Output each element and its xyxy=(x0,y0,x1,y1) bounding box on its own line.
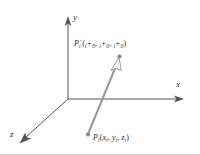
point-marker-source xyxy=(86,132,90,136)
point-label-source: Pi(xi, yi, zi) xyxy=(93,134,129,142)
z-axis-line xyxy=(26,99,68,137)
p-prime-z0-sub: 0 xyxy=(121,43,124,49)
p-prime-y0-sub: 0 xyxy=(106,43,109,49)
p-prime-plus-3: + xyxy=(115,39,120,48)
p-close-paren: ) xyxy=(126,133,129,142)
diagram-canvas xyxy=(0,0,200,155)
p-prime-mark: ′ xyxy=(80,38,82,46)
p-comma-2: , xyxy=(117,133,119,142)
p-prime-x0-sub: 0 xyxy=(92,43,95,49)
figure-container: y x z Pi′(i+0, i+0, i+0) Pi(xi, yi, zi) xyxy=(0,0,200,155)
p-prime-comma-2: , xyxy=(109,39,111,48)
y-axis-label: y xyxy=(73,13,77,22)
p-prime-z-sub: i xyxy=(113,43,115,49)
p-x-sub: i xyxy=(106,137,108,143)
point-marker-translated xyxy=(117,54,121,58)
z-axis-group xyxy=(20,99,69,144)
p-comma-1: , xyxy=(108,133,110,142)
p-symbol-sub: i xyxy=(98,137,100,143)
translation-vector-line xyxy=(88,66,116,134)
p-prime-close-paren: ) xyxy=(123,39,126,48)
point-label-translated: Pi′(i+0, i+0, i+0) xyxy=(74,40,126,48)
figure-bottom-rule xyxy=(0,154,200,155)
p-prime-y-sub: i xyxy=(99,43,101,49)
p-prime-x-sub: i xyxy=(85,43,87,49)
y-axis-group xyxy=(65,16,72,99)
p-prime-comma-1: , xyxy=(95,39,97,48)
x-axis-label: x xyxy=(176,80,180,89)
translation-vector-arrowhead xyxy=(111,57,121,71)
translation-vector-group xyxy=(88,57,121,134)
z-axis-label: z xyxy=(10,130,14,139)
x-axis-group xyxy=(68,96,184,103)
